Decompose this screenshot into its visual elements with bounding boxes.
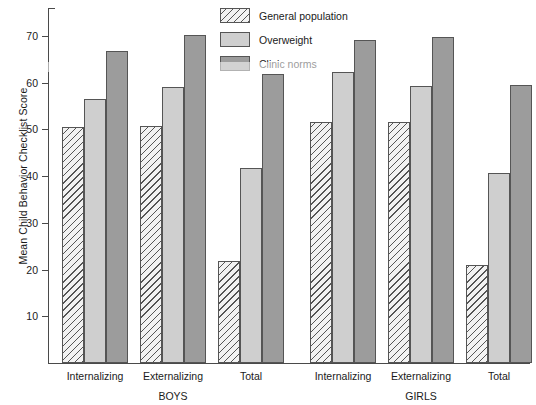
bar-clinic-externalizing-boys: [184, 35, 206, 363]
y-tick-label-20: 20: [4, 265, 38, 275]
y-tick-label-50: 50: [4, 124, 38, 134]
y-tick-label-70: 70: [4, 31, 38, 41]
bar-clinic-total-boys: [262, 74, 284, 363]
plot-area: [48, 8, 530, 363]
y-tick-label-wrap-20: 20: [0, 265, 48, 275]
bar-general-externalizing-boys: [140, 126, 162, 363]
bar-overweight-total-girls: [488, 173, 510, 363]
y-tick-label-40: 40: [4, 171, 38, 181]
x-group-label-girls: GIRLS: [310, 390, 532, 402]
bar-group-total-girls: [466, 8, 532, 363]
bar-general-internalizing-boys: [62, 127, 84, 363]
y-tick-label-wrap-10: 10: [0, 311, 48, 321]
y-tick-label-wrap-70: 70: [0, 31, 48, 41]
bar-overweight-externalizing-boys: [162, 87, 184, 363]
bar-group-externalizing-boys: [140, 8, 206, 363]
bar-overweight-internalizing-boys: [84, 99, 106, 363]
bar-group-total-boys: [218, 8, 284, 363]
bar-clinic-internalizing-girls: [354, 40, 376, 363]
bar-general-total-girls: [466, 265, 488, 363]
bar-general-externalizing-girls: [388, 122, 410, 363]
y-tick-label-wrap-30: 30: [0, 218, 48, 228]
bar-overweight-internalizing-girls: [332, 72, 354, 363]
y-tick-label-60: 60: [4, 78, 38, 88]
y-tick-label-30: 30: [4, 218, 38, 228]
y-tick-label-wrap-60: 60: [0, 78, 48, 88]
bar-overweight-total-boys: [240, 168, 262, 363]
y-tick-label-wrap-50: 50: [0, 124, 48, 134]
x-category-label-total-girls: Total: [452, 370, 536, 382]
x-category-label-total-boys: Total: [204, 370, 298, 382]
bar-group-internalizing-girls: [310, 8, 376, 363]
y-tick-label-10: 10: [4, 311, 38, 321]
bar-general-total-boys: [218, 261, 240, 363]
x-group-label-boys: BOYS: [62, 390, 284, 402]
bar-group-internalizing-boys: [62, 8, 128, 363]
bar-chart: General population Overweight Clinic nor…: [0, 0, 536, 405]
bar-general-internalizing-girls: [310, 122, 332, 363]
x-axis-line: [48, 363, 530, 364]
bar-overweight-externalizing-girls: [410, 86, 432, 363]
bar-group-externalizing-girls: [388, 8, 454, 363]
bar-clinic-internalizing-boys: [106, 51, 128, 363]
y-tick-label-wrap-40: 40: [0, 171, 48, 181]
bar-clinic-externalizing-girls: [432, 37, 454, 363]
bar-clinic-total-girls: [510, 85, 532, 363]
